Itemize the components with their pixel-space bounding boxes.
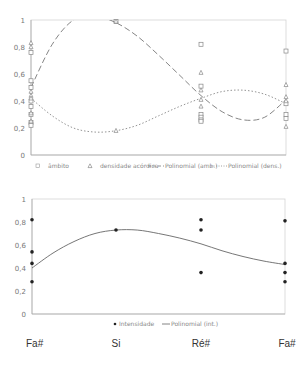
- data-point-intensidade: [283, 271, 287, 275]
- note-label-1: Si: [112, 338, 121, 349]
- bottom-chart: 00,20,40,60,81IntensidadePolinomial (int…: [15, 196, 287, 328]
- data-point-densidade: [199, 70, 203, 74]
- data-point-intensidade: [283, 262, 287, 266]
- data-point-ambito: [284, 113, 288, 117]
- legend-label: Intensidade: [119, 320, 155, 327]
- trendline-polinomial-amb-: [31, 16, 286, 121]
- chart-figure: 00,20,40,60,81âmbitodensidade acórdicaPo…: [0, 0, 304, 367]
- legend-marker-intensidade: [114, 323, 117, 326]
- legend-label: Polinomial (int.): [171, 320, 218, 327]
- data-point-intensidade: [30, 280, 34, 284]
- data-point-ambito: [199, 42, 203, 46]
- data-point-intensidade: [30, 250, 34, 254]
- data-point-ambito: [29, 79, 33, 83]
- y-tick-label: 1: [21, 17, 25, 25]
- y-tick-label: 0,8: [14, 44, 25, 52]
- note-labels: Fa# Si Ré# Fa#: [26, 338, 296, 349]
- data-point-densidade: [284, 83, 288, 87]
- top-chart: 00,20,40,60,81âmbitodensidade acórdicaPo…: [14, 16, 288, 169]
- note-label-3: Fa#: [278, 338, 296, 349]
- data-point-ambito: [29, 123, 33, 127]
- data-point-intensidade: [199, 228, 203, 232]
- y-tick-label: 0,2: [14, 125, 25, 133]
- data-point-intensidade: [114, 228, 118, 232]
- data-point-intensidade: [199, 271, 203, 275]
- plot-frame: [32, 199, 285, 314]
- data-point-ambito: [29, 50, 33, 54]
- data-point-densidade: [114, 128, 118, 132]
- data-point-ambito: [199, 119, 203, 123]
- legend-marker-densidade: [88, 164, 92, 168]
- y-tick-label: 0: [21, 152, 25, 160]
- y-tick-label: 0,4: [15, 265, 27, 273]
- data-point-ambito: [29, 104, 33, 108]
- y-tick-label: 0,8: [15, 219, 26, 227]
- data-point-densidade: [29, 45, 33, 49]
- data-point-intensidade: [30, 218, 34, 222]
- note-label-2: Ré#: [192, 338, 211, 349]
- trendline-polinomial-dens-: [31, 90, 286, 132]
- y-tick-label: 0: [22, 311, 26, 319]
- y-tick-label: 0,4: [14, 98, 26, 106]
- data-point-densidade: [284, 124, 288, 128]
- data-point-densidade: [199, 104, 203, 108]
- data-point-ambito: [284, 49, 288, 53]
- legend-marker-ambito: [36, 164, 40, 168]
- legend-label: âmbito: [48, 162, 69, 169]
- legend-label: Polinomial (amb.): [165, 162, 218, 169]
- note-label-0: Fa#: [26, 338, 44, 349]
- data-point-intensidade: [199, 218, 203, 222]
- legend-label: Polinomial (dens.): [228, 162, 282, 169]
- data-point-intensidade: [283, 280, 287, 284]
- y-tick-label: 0,2: [15, 288, 26, 296]
- trendline-polinomial-int-: [32, 230, 285, 268]
- y-tick-label: 0,6: [14, 71, 26, 79]
- data-point-ambito: [284, 117, 288, 121]
- data-point-densidade: [199, 97, 203, 101]
- data-point-intensidade: [283, 219, 287, 223]
- y-tick-label: 1: [22, 196, 26, 204]
- data-point-intensidade: [30, 262, 34, 266]
- legend-label: densidade acórdica: [100, 162, 159, 169]
- plot-frame: [31, 20, 286, 155]
- y-tick-label: 0,6: [15, 242, 27, 250]
